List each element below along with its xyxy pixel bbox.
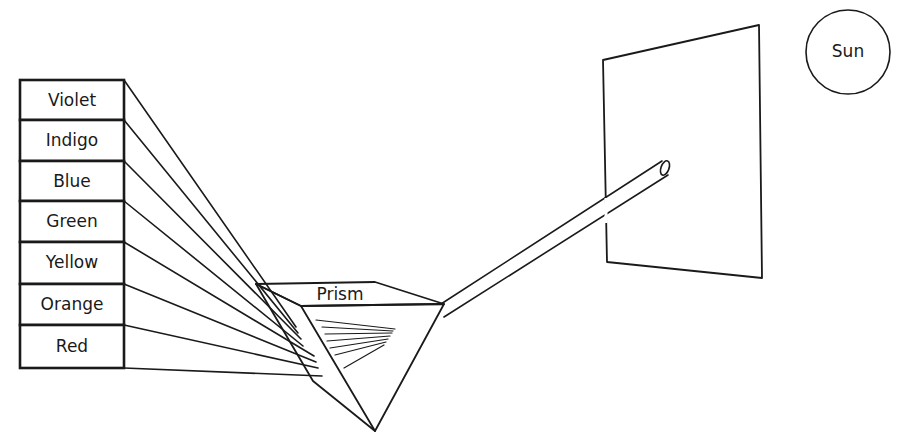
ray-indigo (124, 120, 298, 333)
light-beam (441, 160, 671, 317)
prism-dispersion-diagram: Sun Prism (0, 0, 912, 447)
sun-label: Sun (832, 41, 864, 61)
ray-green (124, 201, 303, 346)
ray-red-lower (124, 368, 322, 376)
ray-violet (124, 80, 296, 327)
beam-edge-bottom (444, 175, 668, 317)
dispersed-rays (124, 80, 322, 376)
ray-red (124, 325, 318, 368)
spectrum-label-violet: Violet (48, 90, 97, 110)
screen (603, 25, 762, 278)
spectrum-label-orange: Orange (41, 294, 104, 314)
prism-label: Prism (316, 284, 363, 304)
ray-orange (124, 284, 316, 362)
spectrum-label-indigo: Indigo (46, 130, 99, 150)
ray-blue (124, 161, 301, 339)
spectrum-label-yellow: Yellow (45, 252, 98, 272)
spectrum-label-red: Red (56, 336, 88, 356)
internal-rays (316, 320, 395, 368)
prism: Prism (256, 282, 444, 431)
spectrum-label-blue: Blue (53, 171, 91, 191)
sun: Sun (806, 10, 890, 94)
beam-edge-top (441, 161, 662, 304)
screen-panel (603, 25, 762, 278)
spectrum-label-green: Green (46, 211, 97, 231)
prism-front-face (301, 304, 444, 431)
spectrum-labels: Violet Indigo Blue Green Yellow Orange R… (20, 80, 124, 368)
